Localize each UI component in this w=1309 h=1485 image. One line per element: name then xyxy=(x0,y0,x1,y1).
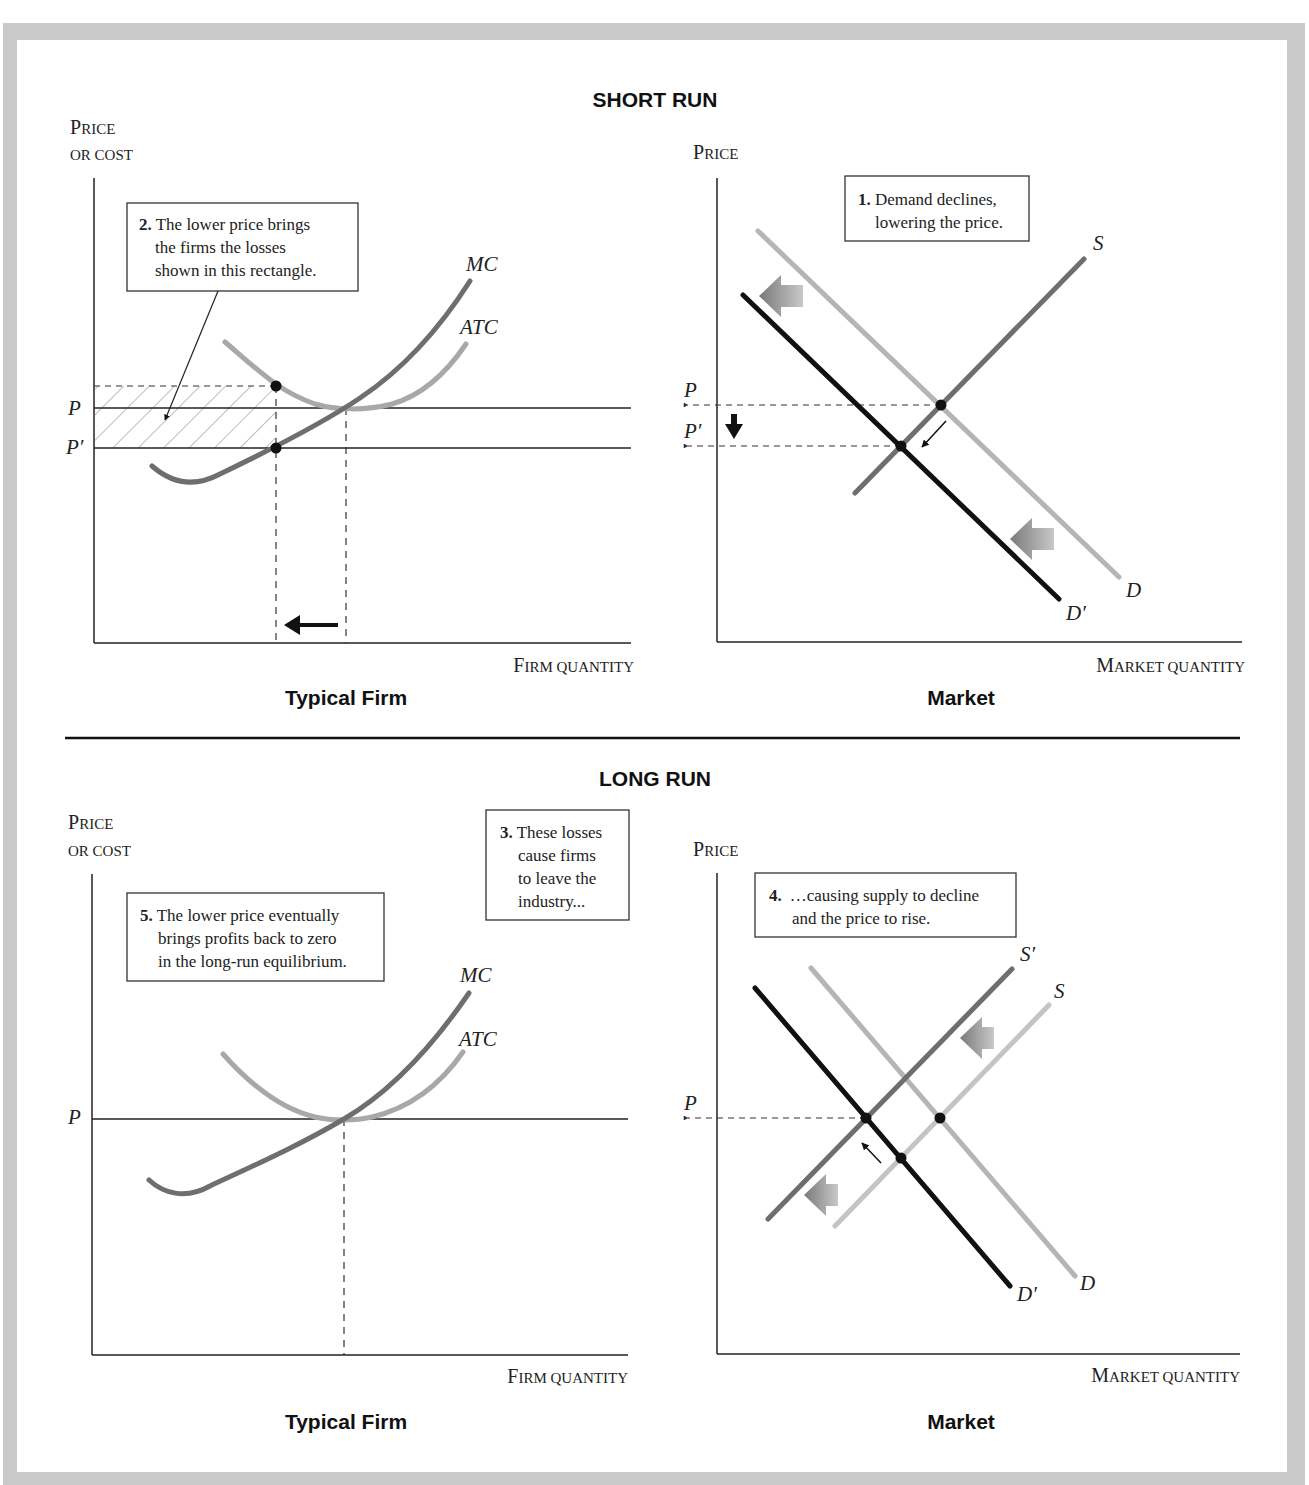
arrow-down-icon xyxy=(725,414,743,439)
mc-curve xyxy=(152,281,470,482)
supply-shift-arrow-icon xyxy=(960,1017,994,1059)
new-equilibrium-point xyxy=(861,1113,872,1124)
note-3-line-3: to leave the xyxy=(518,869,596,888)
supply-label-s: S xyxy=(1093,231,1104,255)
demand-label-d-prime: D′ xyxy=(1065,601,1086,625)
note-4-line-1: 4.…causing supply to decline xyxy=(769,886,979,905)
equilibrium-shift-arrow xyxy=(922,421,946,447)
note-5-line-2: brings profits back to zero xyxy=(158,929,336,948)
atc-label: ATC xyxy=(457,1027,498,1051)
note-2-line-1: 2. The lower price brings xyxy=(139,215,310,234)
market-y-axis-label: PRICE xyxy=(693,838,738,860)
price-label-p: P xyxy=(67,396,81,420)
firm-y-axis-label-2: OR COST xyxy=(68,843,131,859)
note-1-line-2: lowering the price. xyxy=(875,213,1003,232)
firm-y-axis-label: PRICE xyxy=(70,116,115,138)
short-run-title: SHORT RUN xyxy=(593,88,718,111)
market-y-axis-label: PRICE xyxy=(693,141,738,163)
mc-point xyxy=(271,443,282,454)
atc-curve xyxy=(223,1052,463,1120)
mc-label: MC xyxy=(465,252,498,276)
supply-label-s-prime: S′ xyxy=(1020,942,1036,966)
market-x-axis-label: MARKET QUANTITY xyxy=(1091,1364,1240,1386)
firm-x-axis-label: FIRM QUANTITY xyxy=(507,1365,628,1387)
original-equilibrium-point xyxy=(935,1113,946,1124)
market-caption: Market xyxy=(927,686,995,709)
note-3-line-2: cause firms xyxy=(518,846,596,865)
price-label-p: P xyxy=(683,1091,697,1115)
price-label-p-prime: P′ xyxy=(65,435,84,459)
firm-caption: Typical Firm xyxy=(285,1410,407,1433)
firm-y-axis-label-2: OR COST xyxy=(70,147,133,163)
note-2-line-3: shown in this rectangle. xyxy=(155,261,316,280)
market-caption: Market xyxy=(927,1410,995,1433)
atc-point xyxy=(271,381,282,392)
long-run-title: LONG RUN xyxy=(599,767,711,790)
short-run-firm-panel: PRICE OR COST P P′ MC ATC 2. The lower p… xyxy=(65,116,634,709)
short-run-equilibrium-point xyxy=(896,1153,907,1164)
equilibrium-shift-arrow xyxy=(862,1143,881,1163)
arrow-left-icon xyxy=(284,615,338,635)
long-run-market-panel: PRICE P S′ S D D′ 4.…causing supply to d… xyxy=(683,838,1240,1433)
note-5-line-3: in the long-run equilibrium. xyxy=(158,952,347,971)
firm-caption: Typical Firm xyxy=(285,686,407,709)
demand-shift-arrow-icon xyxy=(759,275,803,317)
mc-label: MC xyxy=(459,963,492,987)
old-equilibrium-point xyxy=(936,400,947,411)
supply-curve-s-prime xyxy=(768,969,1012,1219)
price-label-p: P xyxy=(683,378,697,402)
loss-rectangle xyxy=(95,386,276,448)
demand-label-d: D xyxy=(1079,1271,1095,1295)
note-4-line-2: and the price to rise. xyxy=(792,909,930,928)
supply-label-s: S xyxy=(1054,979,1065,1003)
demand-label-d-prime: D′ xyxy=(1016,1282,1037,1306)
note-3-line-1: 3. These losses xyxy=(500,823,602,842)
price-label-p-prime: P′ xyxy=(683,419,702,443)
note-2-line-2: the firms the losses xyxy=(155,238,286,257)
note-box-3-group: 3. These losses cause firms to leave the… xyxy=(486,810,629,920)
demand-shift-arrow-icon xyxy=(1010,518,1054,560)
supply-curve-s xyxy=(855,259,1084,493)
note-3-line-4: industry... xyxy=(518,892,585,911)
firm-y-axis-label: PRICE xyxy=(68,811,113,833)
demand-label-d: D xyxy=(1125,578,1141,602)
note-1-line-1: 1. Demand declines, xyxy=(858,190,997,209)
firm-x-axis-label: FIRM QUANTITY xyxy=(513,654,634,676)
economics-diagram: SHORT RUN PRICE OR COST P P′ MC ATC 2. T… xyxy=(0,0,1309,1485)
note-5-line-1: 5. The lower price eventually xyxy=(140,906,340,925)
market-x-axis-label: MARKET QUANTITY xyxy=(1096,654,1245,676)
price-label-p: P xyxy=(67,1105,81,1129)
short-run-market-panel: PRICE P P′ S D D′ 1. Demand declines, xyxy=(683,141,1245,709)
atc-label: ATC xyxy=(458,315,499,339)
new-equilibrium-point xyxy=(896,441,907,452)
